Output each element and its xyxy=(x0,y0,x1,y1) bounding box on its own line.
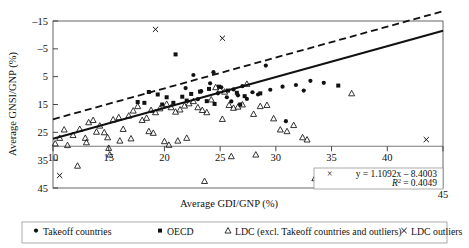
y-tick-label: 5 xyxy=(43,71,48,82)
x-tick-label: 25 xyxy=(215,152,226,163)
y-tick-label: 45 xyxy=(38,183,49,194)
legend-label-0: Takeoff countries xyxy=(43,226,112,237)
point-marker-square xyxy=(243,94,247,98)
point-marker-square xyxy=(213,102,217,106)
legend-marker-square xyxy=(158,229,162,233)
r-squared-value: = 0.4049 xyxy=(403,178,437,188)
x-tick-label: 35 xyxy=(326,152,337,163)
point-marker-square xyxy=(205,99,209,103)
x-tick-label: 40 xyxy=(382,152,393,163)
point-marker-circle xyxy=(184,86,188,90)
point-marker-circle xyxy=(211,70,215,74)
point-marker-circle xyxy=(191,73,195,77)
x-tick-label: 45 xyxy=(438,189,449,200)
point-marker-circle xyxy=(308,79,312,83)
point-marker-circle xyxy=(268,88,272,92)
legend-label-1: OECD xyxy=(167,226,194,237)
point-marker-square xyxy=(189,92,193,96)
point-marker-circle xyxy=(322,81,326,85)
chart-figure: 453525155–5–15 1015202530354045 Average … xyxy=(0,0,469,248)
point-marker-circle xyxy=(225,95,229,99)
legend: Takeoff countriesOECDLDC (excl. Takeoff … xyxy=(22,222,463,243)
point-marker-square xyxy=(165,95,169,99)
point-marker-circle xyxy=(294,83,298,87)
y-axis-title: Average GNSI/GNP (%) xyxy=(7,52,19,156)
point-marker-circle xyxy=(196,97,200,101)
point-marker-square xyxy=(174,52,178,56)
point-marker-square xyxy=(171,101,175,105)
y-tick-label: 35 xyxy=(38,155,49,166)
point-marker-square xyxy=(258,91,262,95)
point-marker-circle xyxy=(284,119,288,123)
y-tick-label: –5 xyxy=(37,43,49,54)
point-marker-square xyxy=(198,90,202,94)
y-tick-label: –15 xyxy=(31,16,48,27)
point-marker-square xyxy=(147,90,151,94)
point-marker-square xyxy=(142,101,146,105)
chart-background xyxy=(0,0,469,248)
point-marker-square xyxy=(336,84,340,88)
x-tick-label: 20 xyxy=(159,152,170,163)
x-axis-title: Average GDI/GNP (%) xyxy=(180,198,278,210)
point-marker-square xyxy=(180,95,184,99)
legend-marker-circle xyxy=(34,229,38,233)
point-marker-circle xyxy=(280,85,284,89)
r-squared-exponent: 2 xyxy=(398,177,402,184)
point-marker-square xyxy=(207,87,211,91)
equation-cross-marker: × xyxy=(327,169,332,179)
y-tick-label: 15 xyxy=(38,99,49,110)
point-marker-circle xyxy=(250,90,254,94)
point-marker-square xyxy=(235,91,239,95)
point-marker-circle xyxy=(208,81,212,85)
equation-annotation: × y = 1.1092x – 8.4003 R2= 0.4049 xyxy=(314,168,443,189)
point-marker-circle xyxy=(302,88,306,92)
x-tick-label: 10 xyxy=(48,152,59,163)
point-marker-circle xyxy=(264,63,268,67)
scatter-plot: 453525155–5–15 1015202530354045 Average … xyxy=(0,0,469,248)
legend-label-2: LDC (excl. Takeoff countries and outlier… xyxy=(235,226,402,238)
legend-label-3: LDC outliers xyxy=(411,226,463,237)
y-tick-label: 25 xyxy=(38,127,49,138)
point-marker-square xyxy=(156,92,160,96)
x-tick-label: 30 xyxy=(271,152,282,163)
